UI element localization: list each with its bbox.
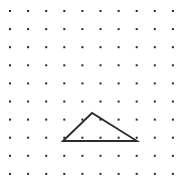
grid-dot	[9, 137, 11, 139]
grid-dot	[136, 64, 138, 66]
grid-dot	[81, 119, 83, 121]
grid-dot	[172, 82, 174, 84]
grid-dot	[63, 101, 65, 103]
grid-dot	[154, 155, 156, 157]
grid-dot	[118, 119, 120, 121]
grid-dot	[118, 101, 120, 103]
grid-dot	[136, 82, 138, 84]
grid-dot	[118, 82, 120, 84]
grid-dot	[81, 101, 83, 103]
grid-dot	[154, 28, 156, 30]
grid-dot	[154, 137, 156, 139]
dot-grid-canvas	[0, 0, 188, 190]
grid-dot	[172, 173, 174, 175]
grid-dot	[172, 28, 174, 30]
grid-dot	[154, 119, 156, 121]
grid-dot	[27, 137, 29, 139]
grid-dot	[136, 101, 138, 103]
grid-dot	[118, 46, 120, 48]
grid-dot	[172, 64, 174, 66]
grid-dot	[172, 10, 174, 12]
grid-dot	[45, 46, 47, 48]
grid-dot	[45, 119, 47, 121]
grid-dot	[27, 10, 29, 12]
grid-dot	[45, 82, 47, 84]
grid-dot	[9, 46, 11, 48]
grid-dot	[81, 155, 83, 157]
grid-dot	[100, 101, 102, 103]
grid-dot	[45, 155, 47, 157]
grid-dot	[63, 46, 65, 48]
grid-dot	[45, 101, 47, 103]
grid-dot	[154, 101, 156, 103]
grid-dot	[136, 119, 138, 121]
grid-dot	[45, 173, 47, 175]
grid-dot	[81, 64, 83, 66]
grid-dot	[136, 137, 138, 139]
grid-dot	[154, 10, 156, 12]
grid-dot	[27, 119, 29, 121]
grid-dot	[100, 64, 102, 66]
grid-dot	[81, 173, 83, 175]
grid-dot	[100, 10, 102, 12]
grid-dot	[27, 46, 29, 48]
grid-dot	[154, 46, 156, 48]
grid-dot	[118, 64, 120, 66]
grid-dot	[45, 10, 47, 12]
grid-dot	[9, 28, 11, 30]
grid-dot	[45, 64, 47, 66]
grid-dot	[9, 64, 11, 66]
grid-dot	[136, 28, 138, 30]
grid-dot	[27, 82, 29, 84]
grid-dot	[27, 28, 29, 30]
grid-dot	[81, 137, 83, 139]
grid-dot	[100, 173, 102, 175]
grid-dot	[9, 155, 11, 157]
grid-dot	[172, 101, 174, 103]
grid-dot	[154, 173, 156, 175]
grid-dot	[63, 119, 65, 121]
grid-dot	[172, 137, 174, 139]
grid-dot	[27, 173, 29, 175]
grid-dot	[118, 137, 120, 139]
grid-dot	[172, 46, 174, 48]
grid-dot	[81, 10, 83, 12]
figure-svg	[0, 0, 188, 190]
grid-dot	[136, 10, 138, 12]
grid-dot	[27, 155, 29, 157]
grid-dot	[118, 173, 120, 175]
grid-dot	[63, 82, 65, 84]
grid-dot	[100, 28, 102, 30]
grid-dot	[100, 155, 102, 157]
grid-dot	[136, 155, 138, 157]
grid-dot	[100, 82, 102, 84]
grid-dot	[63, 10, 65, 12]
grid-dot	[63, 28, 65, 30]
grid-dot	[9, 119, 11, 121]
grid-dot	[9, 82, 11, 84]
grid-dot	[27, 101, 29, 103]
grid-dot	[63, 64, 65, 66]
grid-dot	[9, 10, 11, 12]
grid-dot	[154, 64, 156, 66]
grid-dot	[100, 46, 102, 48]
grid-dot	[118, 155, 120, 157]
grid-dot	[45, 28, 47, 30]
grid-dot	[63, 173, 65, 175]
grid-dot	[100, 137, 102, 139]
grid-dot	[172, 119, 174, 121]
grid-dot	[118, 10, 120, 12]
grid-dot	[9, 173, 11, 175]
grid-dot	[81, 82, 83, 84]
grid-dot	[154, 82, 156, 84]
grid-dot	[118, 28, 120, 30]
grid-dot	[27, 64, 29, 66]
grid-dot	[9, 101, 11, 103]
grid-dot	[45, 137, 47, 139]
grid-dot	[136, 46, 138, 48]
grid-dot	[63, 155, 65, 157]
grid-dot	[136, 173, 138, 175]
grid-dot	[81, 28, 83, 30]
grid-dot	[81, 46, 83, 48]
grid-dot	[172, 155, 174, 157]
